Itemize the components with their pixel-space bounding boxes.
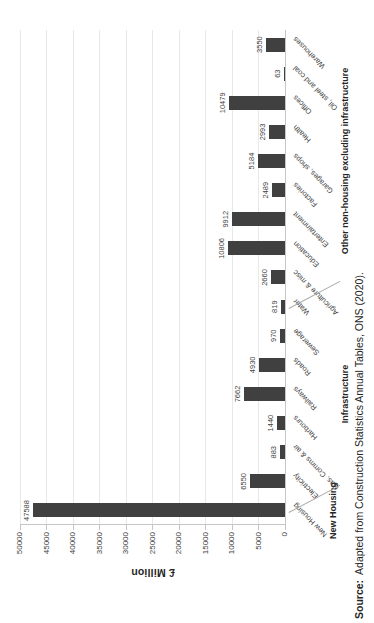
y-axis-tick-mark [126,525,127,530]
y-axis-tick-label: 40000 [68,532,78,583]
bar-value-label: 819 [270,277,280,337]
page: { "chart_data": { "type": "bar", "title"… [0,0,374,623]
category-label: Sewerage [291,326,321,356]
y-axis-tick-label: 25000 [148,532,158,583]
bar-value-label: 5184 [247,131,257,191]
y-axis-tick-mark [152,525,153,530]
gridline [152,30,153,525]
bar-value-label: 47588 [22,480,32,540]
bar [269,125,285,139]
bar [280,329,285,343]
bar [232,212,285,226]
y-axis-tick-label: 5000 [254,532,264,583]
y-axis-tick-label: 30000 [121,532,131,583]
source-caption: Source:Adapted from Construction Statist… [353,272,365,619]
y-axis-tick-mark [232,525,233,530]
bar [271,271,285,285]
bar-value-label: 9912 [221,189,231,249]
bar-chart: £ Million 050001000015000200002500030000… [0,0,374,623]
y-axis-tick-label: 45000 [42,532,52,583]
bar [228,241,285,255]
category-label: Health [291,123,313,145]
y-axis-tick-label: 10000 [227,532,237,583]
y-axis-tick-mark [46,525,47,530]
y-axis-tick-mark [258,525,259,530]
gridline [179,30,180,525]
gridline [20,30,21,525]
bar [280,445,285,459]
bar [266,38,285,52]
bar-value-label: 2993 [258,102,268,162]
source-label: Source: [353,580,365,619]
chart-rotated-stage: £ Million 050001000015000200002500030000… [0,0,374,623]
y-axis-tick-label: 20000 [174,532,184,583]
category-label: Factories [291,181,319,209]
bar-value-label: 63 [273,44,283,104]
bar [250,474,285,488]
value-axis-line [20,524,285,525]
bar-value-label: 7662 [233,364,243,424]
gridline [126,30,127,525]
gridline [205,30,206,525]
bar [284,67,285,81]
y-axis-tick-label: 15000 [201,532,211,583]
bar-value-label: 1440 [266,393,276,453]
category-label: Railways [291,385,319,413]
bar [272,183,285,197]
y-axis-tick-mark [205,525,206,530]
category-axis-line [285,30,286,525]
source-text: Adapted from Construction Statistics Ann… [353,272,365,575]
y-axis-tick-label: 0 [280,532,290,583]
bar-value-label: 6550 [239,451,249,511]
bar-value-label: 4930 [248,335,258,395]
gridline [99,30,100,525]
bar-value-label: 10479 [218,73,228,133]
y-axis-tick-mark [99,525,100,530]
y-axis-tick-mark [179,525,180,530]
gridline [73,30,74,525]
gridline [46,30,47,525]
group-label: Other non-housing excluding infrastructu… [340,0,351,322]
bar-value-label: 2489 [261,160,271,220]
y-axis-tick-label: 35000 [95,532,105,583]
category-label: Harbours [291,414,319,442]
category-label: Offices [291,93,314,116]
bar-value-label: 2660 [260,248,270,308]
category-label: Roads [291,355,313,377]
y-axis-tick-mark [285,525,286,530]
y-axis-tick-mark [20,525,21,530]
category-label: Education [291,239,321,269]
y-axis-tick-mark [73,525,74,530]
bar-value-label: 3550 [255,15,265,75]
bar [277,416,285,430]
bar [281,300,285,314]
